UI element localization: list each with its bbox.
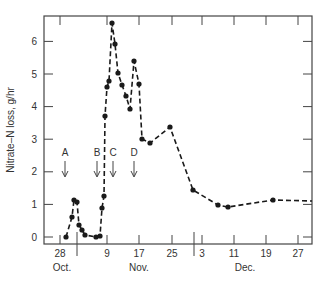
data-point [190,187,195,192]
data-point [215,202,220,207]
arrow-label: A [62,147,69,158]
y-tick-label: 6 [31,36,37,47]
event-arrow-a: A [62,147,69,177]
arrow-label: C [109,147,116,158]
data-point [97,233,102,238]
event-arrow-b: B [94,147,101,177]
month-label: Dec. [235,262,256,273]
month-label: Nov. [129,262,149,273]
x-tick-label: 27 [292,248,304,259]
y-tick-label: 0 [31,232,37,243]
y-tick-label: 2 [31,166,37,177]
event-arrow-c: C [109,147,116,177]
data-point [104,84,109,89]
data-point [82,232,87,237]
data-point [63,234,68,239]
x-tick-label: 11 [229,248,240,259]
plot-border [44,16,312,244]
month-label: Oct. [53,262,71,273]
data-point [76,222,81,227]
data-point [106,78,111,83]
y-tick-label: 4 [31,101,37,112]
data-point [270,197,275,202]
data-point [99,205,104,210]
data-point [74,199,79,204]
data-point [123,93,128,98]
x-tick-label: 3 [199,248,205,259]
event-arrows: ABCD [62,147,138,177]
arrow-label: D [130,147,137,158]
y-axis-label: Nitrate–N loss, g/hr [5,87,16,173]
data-point [115,70,120,75]
x-axis: 28917253111927Oct.Nov.Dec. [53,16,304,273]
data-point [139,136,144,141]
data-point [109,20,114,25]
data-point [136,81,141,86]
nitrate-loss-chart: 0123456 28917253111927Oct.Nov.Dec. ABCD … [0,0,328,283]
data-point [167,124,172,129]
data-point [147,140,152,145]
x-tick-label: 9 [104,248,110,259]
data-series [63,20,312,239]
series-line [66,23,312,237]
data-point [127,106,132,111]
event-arrow-d: D [130,147,137,177]
y-tick-label: 1 [31,199,37,210]
data-point [225,204,230,209]
data-point [119,82,124,87]
data-point [102,113,107,118]
plot-frame [44,16,312,244]
x-tick-label: 25 [166,248,178,259]
data-point [101,193,106,198]
data-point [112,41,117,46]
y-axis: 0123456 [31,36,312,243]
y-tick-label: 5 [31,69,37,80]
data-point [131,58,136,63]
arrow-label: B [94,147,101,158]
x-tick-label: 28 [54,248,66,259]
y-tick-label: 3 [31,134,37,145]
x-tick-label: 17 [133,248,145,259]
x-tick-label: 19 [260,248,272,259]
data-point [69,214,74,219]
data-point [79,227,84,232]
